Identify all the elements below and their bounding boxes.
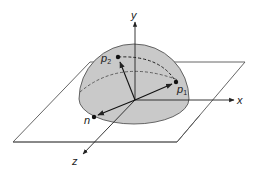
z-axis-label: z (71, 155, 78, 167)
n-label: n (84, 114, 90, 126)
x-axis-label: x (236, 94, 243, 106)
hemisphere (79, 44, 189, 124)
y-axis-label: y (130, 9, 138, 21)
point-p2 (116, 55, 120, 59)
hemisphere-diagram: y x z p2 p1 n (0, 0, 258, 170)
point-n (92, 115, 96, 119)
